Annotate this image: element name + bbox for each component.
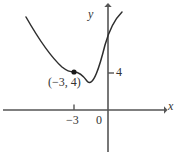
x-axis-arrow-icon bbox=[164, 106, 168, 114]
coordinate-plane bbox=[0, 0, 177, 152]
y-axis-label: y bbox=[88, 8, 93, 20]
x-tick-label-minus3: −3 bbox=[66, 114, 79, 126]
y-axis-arrow-icon bbox=[104, 3, 111, 7]
origin-label: 0 bbox=[96, 114, 102, 126]
vertex-label: (−3, 4) bbox=[48, 76, 81, 88]
x-axis-label: x bbox=[168, 100, 173, 112]
y-tick-label-4: 4 bbox=[116, 66, 122, 78]
vertex-point bbox=[71, 69, 76, 74]
graph-figure: y x 4 −3 0 (−3, 4) bbox=[0, 0, 177, 152]
